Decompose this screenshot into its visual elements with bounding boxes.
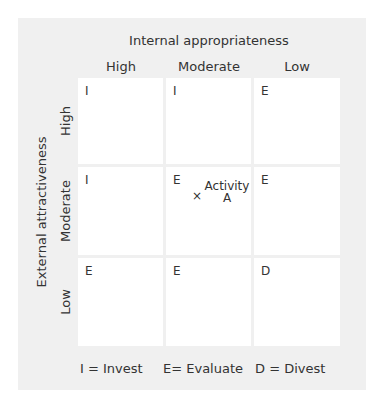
cell-high-moderate: I bbox=[166, 78, 251, 164]
cell-code: E bbox=[85, 264, 93, 278]
activity-label: Activity A bbox=[204, 180, 250, 204]
row-header-moderate: Moderate bbox=[56, 167, 74, 255]
activity-label-line2: A bbox=[204, 192, 250, 204]
cell-high-low: E bbox=[254, 78, 340, 164]
legend-invest: I = Invest bbox=[80, 361, 143, 376]
cell-moderate-high: I bbox=[78, 167, 163, 255]
cell-high-high: I bbox=[78, 78, 163, 164]
cell-code: I bbox=[173, 84, 177, 98]
cell-moderate-low: E bbox=[254, 167, 340, 255]
cell-low-low: D bbox=[254, 258, 340, 346]
activity-marker-icon: × bbox=[192, 189, 202, 203]
legend-evaluate: E= Evaluate bbox=[163, 361, 243, 376]
row-header-moderate-text: Moderate bbox=[58, 180, 73, 242]
cell-low-high: E bbox=[78, 258, 163, 346]
column-header-low: Low bbox=[254, 59, 340, 74]
cell-moderate-moderate: E × Activity A bbox=[166, 167, 251, 255]
cell-low-moderate: E bbox=[166, 258, 251, 346]
cell-code: E bbox=[261, 84, 269, 98]
cell-code: I bbox=[85, 173, 89, 187]
row-header-low: Low bbox=[56, 258, 74, 346]
row-header-high-text: High bbox=[58, 106, 73, 136]
cell-code: E bbox=[173, 264, 181, 278]
x-axis-title: Internal appropriateness bbox=[78, 33, 340, 48]
legend-divest: D = Divest bbox=[255, 361, 325, 376]
y-axis-title-text: External attractiveness bbox=[34, 137, 49, 288]
row-header-low-text: Low bbox=[58, 289, 73, 315]
cell-code: E bbox=[261, 173, 269, 187]
row-header-high: High bbox=[56, 78, 74, 164]
cell-code: I bbox=[85, 84, 89, 98]
cell-code: E bbox=[173, 173, 181, 187]
column-header-high: High bbox=[78, 59, 164, 74]
column-header-moderate: Moderate bbox=[166, 59, 252, 74]
y-axis-title: External attractiveness bbox=[32, 78, 50, 346]
cell-code: D bbox=[261, 264, 270, 278]
